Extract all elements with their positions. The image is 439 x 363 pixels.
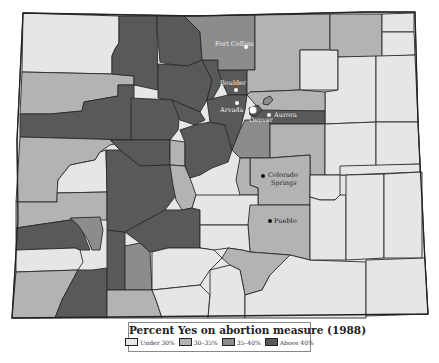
city-label-denver: Denver	[249, 116, 274, 124]
county-costilla	[208, 265, 245, 318]
legend-items: Under 30% 30–35% 35–40% Above 40%	[129, 338, 310, 346]
city-label-boulder: Boulder	[220, 79, 247, 87]
legend-label: Under 30%	[140, 339, 174, 346]
county-crowley	[310, 175, 340, 200]
city-dot-boulder	[234, 88, 238, 92]
county-phillips	[382, 32, 415, 57]
county-conejos	[152, 285, 210, 318]
county-prowers	[384, 172, 422, 258]
county-sedgwick	[382, 13, 414, 32]
city-dot-denver	[250, 107, 257, 114]
colorado-county-map: Fort Collins Boulder Arvada Denver Auror…	[0, 0, 439, 320]
city-label-aurora: Aurora	[273, 111, 297, 119]
legend-label: Above 40%	[280, 339, 314, 346]
county-hinsdale	[107, 230, 125, 290]
county-bent	[346, 174, 384, 260]
county-kit-carson	[376, 122, 420, 166]
city-label-fort-collins: Fort Collins	[215, 40, 254, 48]
legend-swatch-30-35	[179, 338, 192, 346]
county-eagle	[131, 98, 180, 140]
county-otero	[310, 195, 346, 260]
city-label-pueblo: Pueblo	[274, 217, 297, 225]
county-logan	[330, 14, 382, 57]
legend-label: 35–40%	[237, 339, 261, 346]
legend-item-35-40: 35–40%	[222, 338, 261, 346]
county-moffat	[22, 13, 119, 74]
legend-label: 30–35%	[194, 339, 218, 346]
county-pueblo	[248, 205, 310, 260]
map-legend: Percent Yes on abortion measure (1988) U…	[128, 322, 311, 352]
city-dot-pueblo	[268, 219, 272, 223]
city-label-colorado: Colorado	[268, 171, 298, 179]
county-custer	[200, 225, 250, 252]
county-lake	[170, 140, 185, 166]
legend-swatch-35-40	[222, 338, 235, 346]
county-dolores	[16, 248, 83, 272]
legend-item-under-30: Under 30%	[125, 338, 174, 346]
legend-item-30-35: 30–35%	[179, 338, 218, 346]
city-dot-arvada	[235, 101, 239, 105]
city-dot-aurora	[267, 113, 271, 117]
legend-swatch-under-30	[125, 338, 138, 346]
county-morgan	[300, 50, 338, 90]
city-label-arvada: Arvada	[219, 106, 244, 114]
county-yuma	[376, 55, 418, 122]
county-baca	[366, 258, 428, 316]
legend-swatch-above-40	[265, 338, 278, 346]
legend-title: Percent Yes on abortion measure (1988)	[129, 324, 310, 337]
city-label-springs: Springs	[271, 179, 296, 187]
legend-item-above-40: Above 40%	[265, 338, 314, 346]
city-dot-colorado-springs	[261, 174, 265, 178]
